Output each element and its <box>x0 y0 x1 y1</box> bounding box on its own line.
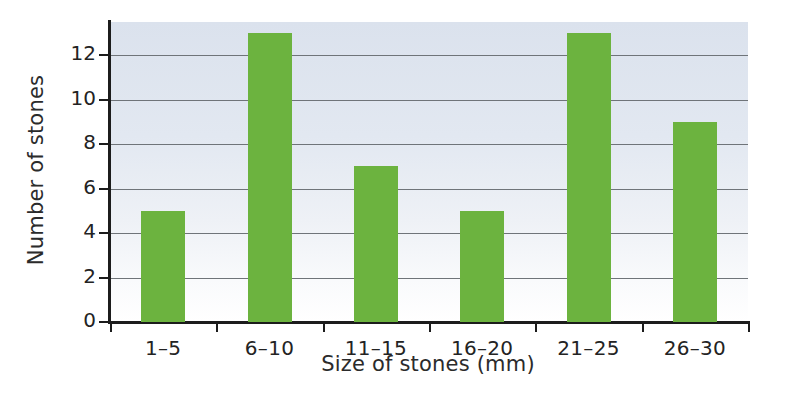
bar-chart: Number of stones Size of stones (mm) 024… <box>0 0 788 402</box>
plot-area <box>110 22 748 322</box>
x-axis-tick <box>216 322 218 332</box>
y-axis-tick <box>99 143 109 145</box>
y-axis-tick <box>99 277 109 279</box>
bar <box>354 166 398 322</box>
y-axis-title: Number of stones <box>14 0 58 340</box>
y-axis-tick-label: 2 <box>58 264 96 288</box>
y-axis-tick <box>99 232 109 234</box>
y-axis-tick <box>99 321 109 323</box>
gridline <box>110 100 748 101</box>
bar <box>460 211 504 322</box>
y-axis-tick-label: 6 <box>58 175 96 199</box>
x-axis-tick <box>535 322 537 332</box>
bar <box>673 122 717 322</box>
bar <box>141 211 185 322</box>
x-axis-tick-label: 21–25 <box>529 336 649 360</box>
gridline <box>110 233 748 234</box>
x-axis-tick <box>642 322 644 332</box>
gridline <box>110 189 748 190</box>
y-axis-tick <box>99 54 109 56</box>
bar <box>567 33 611 322</box>
x-axis-tick <box>748 322 750 332</box>
gridline <box>110 144 748 145</box>
gridline <box>110 55 748 56</box>
y-axis-tick <box>99 188 109 190</box>
x-axis-tick-label: 11–15 <box>316 336 436 360</box>
x-axis-tick-label: 6–10 <box>210 336 330 360</box>
x-axis-tick <box>429 322 431 332</box>
x-axis-tick <box>110 322 112 332</box>
x-axis-tick <box>323 322 325 332</box>
y-axis-tick <box>99 99 109 101</box>
gridline <box>110 278 748 279</box>
x-axis-tick-label: 26–30 <box>635 336 755 360</box>
y-axis-tick-label: 8 <box>58 130 96 154</box>
bar <box>248 33 292 322</box>
x-axis-tick-label: 1–5 <box>103 336 223 360</box>
y-axis-tick-label: 12 <box>58 41 96 65</box>
x-axis-tick-label: 16–20 <box>422 336 542 360</box>
y-axis-tick-label: 10 <box>58 86 96 110</box>
y-axis-tick-label: 4 <box>58 219 96 243</box>
y-axis-tick-label: 0 <box>58 308 96 332</box>
